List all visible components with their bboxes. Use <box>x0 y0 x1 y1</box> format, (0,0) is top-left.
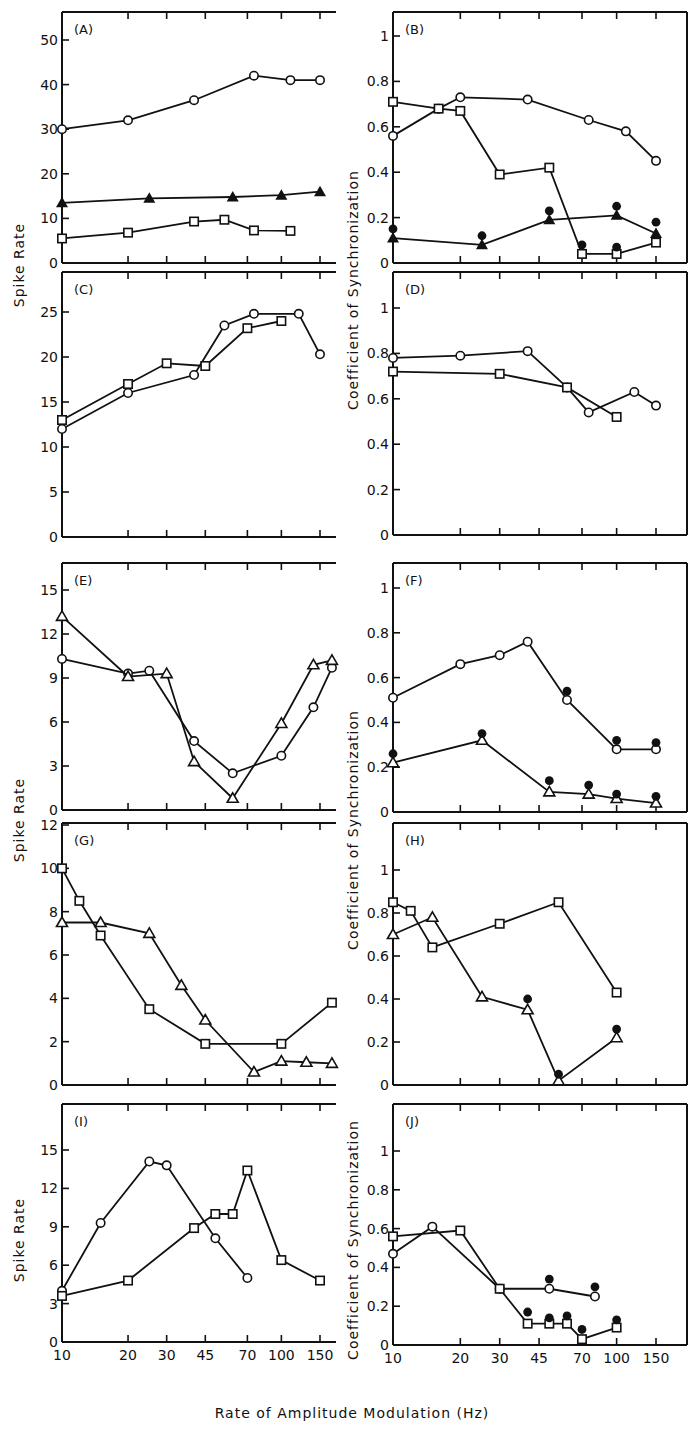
marker-open-square <box>58 234 66 242</box>
y-tick-label: 30 <box>40 121 58 137</box>
marker-filled-circle <box>612 202 621 211</box>
series-line <box>62 321 281 420</box>
marker-open-square <box>389 898 397 906</box>
marker-open-circle <box>652 157 660 165</box>
marker-open-triangle <box>427 912 438 922</box>
y-tick-label: 0.6 <box>367 1221 389 1237</box>
marker-open-circle <box>428 1222 436 1230</box>
y-tick-label: 1 <box>380 300 389 316</box>
y-tick-label: 10 <box>40 439 58 455</box>
y-tick-label: 0.6 <box>367 670 389 686</box>
marker-open-square <box>124 1276 132 1284</box>
panel-i: 03691215(I)1020304570100150 <box>40 1104 336 1363</box>
marker-open-square <box>220 216 228 224</box>
marker-open-triangle <box>326 655 337 665</box>
series-line <box>393 102 656 254</box>
marker-open-triangle <box>176 980 187 990</box>
marker-open-square <box>495 170 503 178</box>
series-line <box>62 923 332 1073</box>
marker-filled-circle <box>545 1275 554 1284</box>
marker-open-circle <box>58 425 66 433</box>
y-tick-label: 0 <box>49 529 58 545</box>
y-axis-title-left-bottom: Spike Rate <box>11 778 27 862</box>
marker-open-circle <box>220 321 228 329</box>
marker-open-circle <box>295 310 303 318</box>
panel-label: (B) <box>405 22 424 37</box>
marker-open-circle <box>190 737 198 745</box>
marker-open-square <box>201 362 209 370</box>
panel-j: 00.20.40.60.81(J)1020304570100150 <box>367 1104 687 1366</box>
series-line <box>393 1227 595 1297</box>
panel-a: 01020304050(A) <box>40 12 336 271</box>
marker-open-circle <box>309 703 317 711</box>
marker-open-circle <box>190 371 198 379</box>
marker-open-square <box>277 1040 285 1048</box>
y-tick-label: 0 <box>49 1077 58 1093</box>
marker-open-circle <box>145 666 153 674</box>
y-tick-label: 1 <box>380 28 389 44</box>
marker-open-square <box>578 1335 586 1343</box>
y-tick-label: 0.4 <box>367 1259 389 1275</box>
y-tick-label: 0.2 <box>367 210 389 226</box>
y-tick-label: 0.4 <box>367 714 389 730</box>
marker-open-triangle <box>611 1032 622 1042</box>
marker-filled-circle <box>545 776 554 785</box>
y-tick-label: 0 <box>380 255 389 271</box>
marker-filled-circle <box>578 1325 587 1334</box>
marker-open-circle <box>124 389 132 397</box>
y-tick-label: 40 <box>40 77 58 93</box>
marker-open-square <box>545 163 553 171</box>
y-axis-title-right-bottom: Coefficient of Synchronization <box>345 1120 361 1360</box>
series-line <box>393 1231 617 1340</box>
y-tick-label: 0.8 <box>367 905 389 921</box>
y-tick-label: 0.6 <box>367 948 389 964</box>
marker-open-triangle <box>57 611 68 621</box>
marker-open-square <box>316 1276 324 1284</box>
marker-open-square <box>428 943 436 951</box>
series-line <box>62 616 332 798</box>
marker-open-square <box>211 1210 219 1218</box>
y-tick-label: 15 <box>40 1142 58 1158</box>
marker-filled-circle <box>612 790 621 799</box>
y-tick-label: 4 <box>49 990 58 1006</box>
series-line <box>393 642 656 750</box>
x-tick-label: 150 <box>643 1350 670 1366</box>
marker-open-circle <box>523 347 531 355</box>
marker-open-square <box>250 226 258 234</box>
marker-open-circle <box>584 116 592 124</box>
y-tick-label: 15 <box>40 582 58 598</box>
x-tick-label: 100 <box>603 1350 630 1366</box>
marker-open-square <box>162 359 170 367</box>
series-line <box>393 902 617 992</box>
marker-open-square <box>523 1319 531 1327</box>
marker-open-circle <box>495 651 503 659</box>
y-tick-label: 2 <box>49 1034 58 1050</box>
y-tick-label: 6 <box>49 1257 58 1273</box>
marker-open-circle <box>250 71 258 79</box>
y-tick-label: 6 <box>49 714 58 730</box>
series-line <box>62 659 332 773</box>
series-line <box>62 868 332 1044</box>
marker-open-square <box>612 1323 620 1331</box>
marker-open-circle <box>162 1161 170 1169</box>
x-tick-label: 150 <box>307 1347 334 1363</box>
marker-open-square <box>652 238 660 246</box>
marker-filled-circle <box>389 749 398 758</box>
y-axis-title-right-top: Coefficient of Synchronization <box>345 170 361 410</box>
y-tick-label: 0.2 <box>367 1298 389 1314</box>
y-tick-label: 0.4 <box>367 436 389 452</box>
marker-open-triangle <box>189 756 200 766</box>
marker-open-circle <box>523 638 531 646</box>
marker-open-square <box>328 998 336 1006</box>
y-tick-label: 0.4 <box>367 991 389 1007</box>
marker-open-square <box>434 104 442 112</box>
marker-open-circle <box>591 1292 599 1300</box>
x-tick-label: 20 <box>119 1347 137 1363</box>
marker-filled-circle <box>563 1312 572 1321</box>
figure: 01020304050(A)00.20.40.60.81(B)051015202… <box>0 0 700 1439</box>
panel-e: 03691215(E) <box>40 563 337 818</box>
series-line <box>393 372 617 417</box>
marker-open-square <box>286 227 294 235</box>
marker-open-square <box>612 988 620 996</box>
marker-open-circle <box>584 408 592 416</box>
